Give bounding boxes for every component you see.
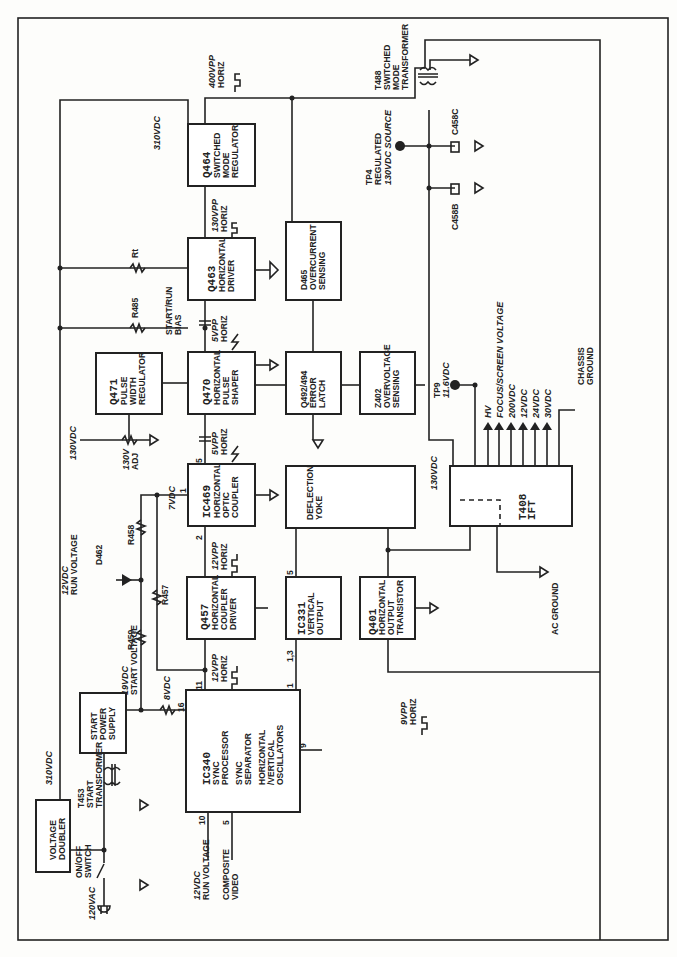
svg-text:HORIZ: HORIZ (219, 316, 229, 342)
svg-text:START VOLTAGE: START VOLTAGE (129, 625, 139, 695)
svg-text:PROCESSOR: PROCESSOR (220, 731, 230, 785)
v8-label: 8VDC (162, 675, 172, 700)
svg-text:TRANSFORMER: TRANSFORMER (400, 24, 410, 90)
t453-start-transformer (104, 764, 120, 786)
svg-text:SENSING: SENSING (317, 251, 327, 290)
d462-diode (122, 574, 132, 586)
svg-text:LATCH: LATCH (317, 380, 327, 408)
svg-text:BIAS: BIAS (173, 314, 183, 335)
svg-text:DOUBLER: DOUBLER (57, 818, 67, 860)
output-24vdc: 24VDC (531, 388, 541, 419)
svg-text:HORIZ: HORIZ (219, 429, 229, 455)
pin-label: 1 (178, 488, 188, 493)
output-30vdc: 30VDC (543, 388, 553, 418)
q471-adj-wire (80, 414, 150, 440)
schematic-diagram: VOLTAGE DOUBLER START POWER SUPPLY IC340… (0, 0, 677, 957)
svg-text:DRIVER: DRIVER (226, 260, 236, 292)
output-12vdc: 12VDC (519, 388, 529, 418)
t488-transformer (418, 68, 438, 85)
svg-text:HORIZ: HORIZ (219, 544, 229, 570)
pin-label: 9 (298, 743, 308, 748)
svg-text:TRANSFORMER: TRANSFORMER (94, 742, 104, 808)
v310-left-label: 310VDC (44, 750, 54, 785)
d462-label: D462 (94, 544, 104, 565)
svg-text:DRIVER: DRIVER (228, 598, 238, 630)
pin-label: 16 (176, 702, 186, 712)
svg-text:SEPARATOR: SEPARATOR (243, 733, 253, 785)
rt-label: Rt (130, 249, 140, 258)
ac-plug-icon (98, 906, 110, 914)
svg-text:RUN VOLTAGE: RUN VOLTAGE (201, 839, 211, 900)
output-focus-screen: FOCUS/SCREEN VOLTAGE (495, 301, 505, 418)
r458-wire (141, 495, 188, 580)
svg-text:REGULATED: REGULATED (373, 133, 383, 185)
svg-text:SWITCH: SWITCH (83, 844, 93, 878)
v130-left-label: 130VDC (68, 425, 78, 460)
pin-label: 2 (194, 535, 204, 540)
ift-ac-ground-wire (497, 526, 540, 572)
svg-text:YOKE: YOKE (314, 496, 324, 520)
ift-output-arrows (483, 422, 552, 430)
svg-text:HORIZ: HORIZ (219, 656, 229, 682)
pin-label: 5 (285, 570, 295, 575)
svg-text:GROUND: GROUND (585, 347, 595, 385)
output-hv: HV (483, 405, 493, 418)
svg-text:OSCILLATORS: OSCILLATORS (275, 725, 285, 785)
svg-text:130VDC SOURCE: 130VDC SOURCE (383, 109, 393, 185)
r485-label: R485 (130, 297, 140, 318)
c458b-label: C458B (450, 204, 460, 230)
on-off-switch[interactable] (97, 864, 104, 878)
svg-text:HORIZ: HORIZ (408, 699, 418, 725)
svg-text:RUN VOLTAGE: RUN VOLTAGE (69, 534, 79, 595)
q401-to-ift (388, 526, 470, 550)
ac-input-label: 120VAC (87, 886, 97, 920)
pin-label: 5 (221, 820, 231, 825)
v7-label: 7VDC (167, 485, 177, 510)
pin-label: 10 (197, 815, 207, 825)
pin-label: 1,3 (285, 650, 295, 662)
svg-text:TRANSISTOR: TRANSISTOR (395, 580, 405, 635)
v130-ift-label: 130VDC (429, 455, 439, 490)
svg-text:11.6VDC: 11.6VDC (441, 362, 451, 398)
t408-ift-block (450, 466, 572, 526)
t488-secondary (430, 60, 470, 70)
svg-text:COUPLER: COUPLER (230, 476, 240, 518)
svg-text:IFT: IFT (526, 500, 538, 520)
c458b-capacitor (451, 184, 459, 194)
c458c-capacitor (451, 142, 459, 152)
r458-label: R458 (126, 524, 136, 545)
svg-text:REGULATOR: REGULATOR (137, 352, 147, 405)
tp9-test-point[interactable] (450, 380, 460, 390)
r457-label: R457 (160, 584, 170, 605)
cap-wires (400, 146, 455, 188)
pin-label: 11 (194, 681, 204, 690)
pin-label: 5 (194, 458, 204, 463)
svg-text:HORIZ: HORIZ (219, 206, 229, 232)
svg-text:REGULATOR: REGULATOR (230, 125, 240, 178)
svg-text:SHAPER: SHAPER (230, 370, 240, 405)
svg-text:VIDEO: VIDEO (230, 873, 240, 900)
v310-top-label: 310VDC (152, 115, 162, 150)
tp9-wire (455, 385, 475, 466)
c458c-label: C458C (450, 109, 460, 135)
output-200vdc: 200VDC (507, 383, 517, 419)
ac-ground-label: AC GROUND (550, 583, 560, 635)
svg-text:ADJ: ADJ (130, 453, 140, 470)
q401-drive-wire (388, 639, 600, 672)
pin-label: 1 (285, 683, 295, 688)
svg-text:SUPPLY: SUPPLY (107, 706, 117, 740)
tp4-test-point[interactable] (395, 141, 405, 151)
svg-text:HORIZ: HORIZ (216, 62, 226, 88)
svg-text:OUTPUT: OUTPUT (315, 599, 325, 635)
svg-text:SENSING: SENSING (391, 369, 401, 408)
v130-bus (429, 110, 453, 466)
